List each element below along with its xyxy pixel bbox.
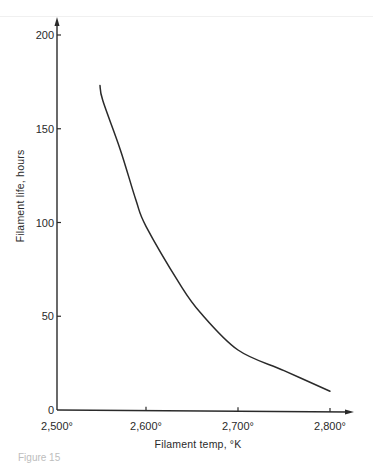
- y-tick-label: 150: [36, 123, 54, 135]
- y-tick-label: 200: [36, 29, 54, 41]
- x-tick-label: 2,600°: [130, 420, 162, 432]
- x-tick-label: 2,500°: [41, 420, 73, 432]
- y-tick-label: 100: [36, 217, 54, 229]
- axes: [55, 17, 355, 415]
- x-tick-label: 2,800°: [314, 420, 346, 432]
- y-tick-label: 0: [48, 404, 54, 416]
- line-chart: 050100150200 2,500°2,600°2,700°2,800° Fi…: [0, 0, 373, 464]
- y-axis-title: Filament life, hours: [14, 150, 26, 243]
- y-axis-arrow-icon: [55, 17, 60, 26]
- x-tick-label: 2,700°: [222, 420, 254, 432]
- x-axis-arrow-icon: [345, 410, 354, 415]
- x-axis-title: Filament temp, °K: [155, 438, 242, 450]
- x-axis: [57, 410, 348, 412]
- y-tick-label: 50: [42, 310, 54, 322]
- figure-caption: Figure 15: [18, 452, 60, 463]
- data-line: [100, 86, 330, 392]
